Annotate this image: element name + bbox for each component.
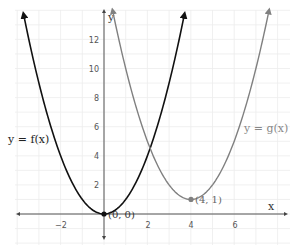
point-label-f: (0, 0) <box>108 209 135 220</box>
x-tick-label: 4 <box>188 221 193 230</box>
y-tick-label: 8 <box>94 94 99 103</box>
x-tick-label: 2 <box>145 221 150 230</box>
label-g: y = g(x) <box>243 122 288 135</box>
y-tick-label: 2 <box>94 181 99 190</box>
vertex-point-g <box>188 197 193 202</box>
point-label-g: (4, 1) <box>195 194 222 205</box>
y-tick-label: 12 <box>89 36 99 45</box>
y-tick-label: 6 <box>94 123 99 132</box>
x-tick-label: −2 <box>55 221 67 230</box>
x-tick-label: 6 <box>232 221 237 230</box>
y-tick-label: 10 <box>89 65 99 74</box>
label-f: y = f(x) <box>7 133 49 146</box>
x-axis-label: x <box>268 200 275 213</box>
y-tick-label: 4 <box>94 152 99 161</box>
vertex-point-f <box>101 211 106 216</box>
function-graph: −2 2 4 6 2 4 6 8 10 12 x y (0, 0) (4, 1)… <box>0 0 299 250</box>
